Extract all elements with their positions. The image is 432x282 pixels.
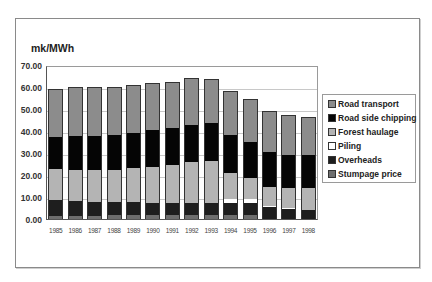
legend-swatch-icon: [328, 128, 336, 136]
x-tick-label: 1993: [201, 227, 221, 234]
x-tick-label: 1996: [259, 227, 279, 234]
bar-1996: [262, 111, 277, 219]
legend-label: Overheads: [338, 155, 382, 165]
bar-1991: [165, 82, 180, 219]
segment-forest-haulage: [126, 168, 141, 202]
segment-forest-haulage: [184, 162, 199, 202]
segment-road-transport: [165, 82, 180, 129]
segment-road-transport: [204, 79, 219, 124]
bar-1990: [145, 83, 160, 219]
legend-label: Road transport: [338, 99, 399, 109]
segment-forest-haulage: [243, 178, 258, 198]
segment-stumpage-price: [145, 215, 160, 219]
segment-road-transport: [243, 99, 258, 142]
segment-road-side-chipping: [184, 125, 199, 162]
x-tick-label: 1992: [182, 227, 202, 234]
legend-item: Forest haulage: [328, 126, 398, 138]
segment-road-side-chipping: [48, 137, 63, 169]
bar-1986: [68, 87, 83, 219]
segment-stumpage-price: [184, 215, 199, 219]
segment-overheads: [165, 203, 180, 215]
y-tick-label: 50.00: [2, 105, 42, 115]
x-tick-label: 1994: [221, 227, 241, 234]
segment-overheads: [126, 202, 141, 215]
segment-road-side-chipping: [126, 133, 141, 168]
segment-stumpage-price: [223, 215, 238, 219]
segment-road-transport: [145, 83, 160, 130]
bar-1993: [204, 79, 219, 219]
x-tick-label: 1989: [123, 227, 143, 234]
segment-road-side-chipping: [262, 152, 277, 187]
segment-road-side-chipping: [87, 136, 102, 170]
segment-overheads: [145, 203, 160, 216]
y-tick-label: 30.00: [2, 149, 42, 159]
plot-area: [46, 66, 318, 220]
segment-stumpage-price: [165, 215, 180, 219]
segment-road-transport: [262, 111, 277, 152]
segment-road-transport: [87, 87, 102, 136]
segment-stumpage-price: [48, 216, 63, 219]
segment-overheads: [204, 203, 219, 215]
segment-stumpage-price: [126, 215, 141, 219]
segment-overheads: [281, 209, 296, 219]
bar-1994: [223, 91, 238, 219]
segment-forest-haulage: [223, 173, 238, 199]
x-tick-label: 1995: [240, 227, 260, 234]
legend-swatch-icon: [328, 142, 336, 150]
legend-item: Stumpage price: [328, 168, 402, 180]
segment-road-side-chipping: [204, 123, 219, 161]
bar-1995: [243, 99, 258, 219]
segment-stumpage-price: [87, 216, 102, 219]
bar-1992: [184, 78, 199, 219]
segment-forest-haulage: [301, 188, 316, 210]
segment-road-side-chipping: [281, 155, 296, 188]
bar-1987: [87, 87, 102, 219]
y-tick-label: 0.00: [2, 215, 42, 225]
x-tick-label: 1988: [104, 227, 124, 234]
x-tick-label: 1986: [65, 227, 85, 234]
segment-forest-haulage: [262, 187, 277, 206]
segment-overheads: [184, 203, 199, 215]
y-tick-label: 60.00: [2, 83, 42, 93]
segment-overheads: [301, 210, 316, 219]
bar-1989: [126, 85, 141, 219]
segment-forest-haulage: [204, 161, 219, 202]
y-tick-label: 20.00: [2, 171, 42, 181]
segment-road-transport: [107, 87, 122, 135]
segment-forest-haulage: [281, 188, 296, 208]
bar-1985: [48, 89, 63, 219]
segment-road-transport: [281, 115, 296, 155]
segment-road-side-chipping: [165, 128, 180, 165]
y-tick-label: 10.00: [2, 193, 42, 203]
x-tick-label: 1987: [85, 227, 105, 234]
segment-forest-haulage: [145, 167, 160, 203]
legend: Road transportRoad side chippingForest h…: [322, 94, 416, 183]
segment-road-side-chipping: [243, 142, 258, 178]
segment-overheads: [48, 200, 63, 215]
bar-1988: [107, 87, 122, 219]
legend-swatch-icon: [328, 114, 336, 122]
x-tick-label: 1991: [162, 227, 182, 234]
segment-road-transport: [301, 117, 316, 154]
legend-item: Piling: [328, 140, 361, 152]
segment-forest-haulage: [107, 170, 122, 202]
segment-road-transport: [48, 89, 63, 137]
segment-forest-haulage: [165, 165, 180, 203]
segment-road-side-chipping: [145, 130, 160, 167]
segment-road-transport: [68, 87, 83, 136]
legend-item: Road transport: [328, 98, 399, 110]
legend-item: Overheads: [328, 154, 382, 166]
legend-swatch-icon: [328, 170, 336, 178]
segment-stumpage-price: [204, 215, 219, 219]
x-tick-label: 1997: [279, 227, 299, 234]
segment-road-side-chipping: [68, 136, 83, 169]
segment-overheads: [107, 202, 122, 216]
segment-road-side-chipping: [107, 135, 122, 170]
segment-overheads: [223, 203, 238, 215]
legend-item: Road side chipping: [328, 112, 416, 124]
segment-overheads: [87, 202, 102, 216]
y-tick-label: 40.00: [2, 127, 42, 137]
segment-forest-haulage: [87, 170, 102, 202]
segment-stumpage-price: [68, 216, 83, 219]
segment-road-transport: [184, 78, 199, 125]
